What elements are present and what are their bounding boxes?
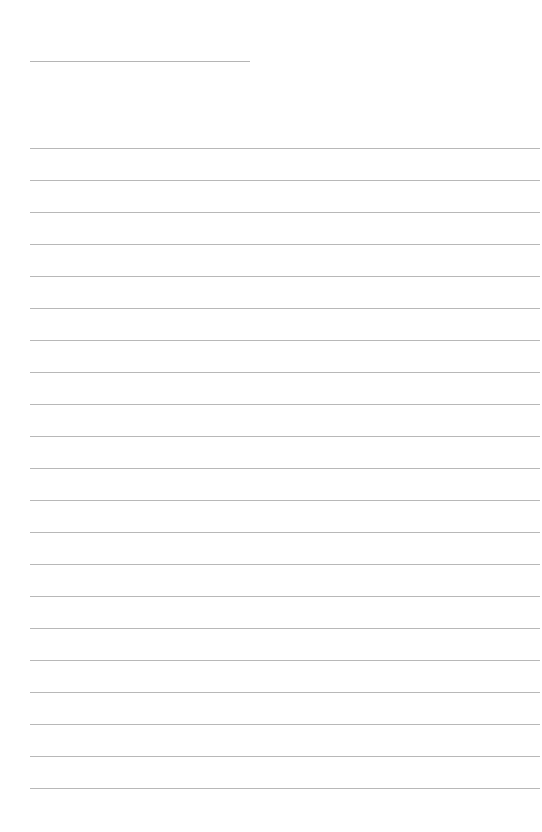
ruled-line [30, 756, 540, 757]
lined-paper-page [0, 0, 542, 832]
ruled-line [30, 660, 540, 661]
ruled-line [30, 724, 540, 725]
ruled-line [30, 340, 540, 341]
ruled-line [30, 372, 540, 373]
ruled-line [30, 532, 540, 533]
ruled-line [30, 564, 540, 565]
ruled-line [30, 788, 540, 789]
ruled-line [30, 212, 540, 213]
ruled-line [30, 180, 540, 181]
ruled-line [30, 596, 540, 597]
ruled-line [30, 148, 540, 149]
ruled-line [30, 244, 540, 245]
ruled-line [30, 404, 540, 405]
ruled-line [30, 692, 540, 693]
ruled-line [30, 436, 540, 437]
ruled-line [30, 500, 540, 501]
ruled-line [30, 628, 540, 629]
header-line [30, 61, 250, 62]
ruled-line [30, 308, 540, 309]
ruled-line [30, 276, 540, 277]
ruled-lines [30, 148, 540, 820]
ruled-line [30, 468, 540, 469]
